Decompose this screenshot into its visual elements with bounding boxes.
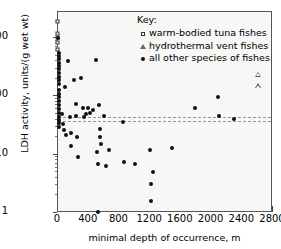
data-point (104, 164, 108, 168)
data-point (56, 20, 60, 24)
open-square-icon (137, 27, 148, 39)
data-point (79, 76, 83, 80)
chart-figure: LDH activity, units/(g wet wt) minimal d… (0, 0, 281, 249)
data-point (84, 112, 88, 116)
data-point (232, 117, 236, 121)
data-point (170, 146, 174, 150)
data-point (91, 108, 95, 112)
data-point (81, 106, 85, 110)
data-point (76, 155, 80, 159)
data-point (122, 160, 126, 164)
data-point (63, 85, 67, 89)
data-point (107, 148, 111, 152)
data-point (102, 114, 106, 118)
data-point (74, 102, 78, 106)
legend-item: all other species of fishes (137, 52, 270, 64)
data-point (98, 135, 102, 139)
data-point (148, 148, 152, 152)
data-point (72, 78, 76, 82)
data-point (86, 106, 90, 110)
legend-item-label: warm-bodied tuna fishes (149, 27, 267, 39)
y-tick-label: 10 (0, 148, 8, 158)
legend-title: Key: (137, 14, 270, 26)
data-point (61, 122, 65, 126)
data-point (216, 95, 220, 99)
data-point (133, 162, 137, 166)
data-point (149, 182, 153, 186)
data-point (96, 162, 100, 166)
data-point (217, 114, 221, 118)
data-point (193, 106, 197, 110)
y-axis-title: LDH activity, units/(g wet wt) (19, 0, 30, 174)
data-point (121, 120, 125, 124)
x-axis-title: minimal depth of occurrence, m (57, 232, 272, 243)
data-point (69, 144, 73, 148)
data-point (149, 199, 153, 203)
data-point (94, 58, 98, 62)
data-point (66, 59, 70, 63)
data-point (57, 82, 61, 86)
y-tick-label: 100 (0, 89, 8, 99)
data-point (97, 103, 101, 107)
data-point (56, 41, 60, 45)
data-point (75, 135, 79, 139)
data-point (98, 127, 102, 131)
data-point (68, 115, 72, 119)
reference-line (58, 117, 271, 118)
y-tick-label: 1000 (0, 31, 8, 41)
legend-item: hydrothermal vent fishes (137, 40, 270, 52)
data-point (255, 72, 261, 77)
reference-line (58, 121, 271, 122)
data-point (96, 210, 100, 214)
data-point (151, 170, 155, 174)
legend-item: warm-bodied tuna fishes (137, 27, 270, 39)
data-point (95, 150, 99, 154)
legend-item-label: all other species of fishes (149, 52, 270, 64)
data-point (255, 83, 261, 88)
data-point (74, 114, 78, 118)
legend-item-label: hydrothermal vent fishes (149, 40, 268, 52)
data-point (99, 142, 103, 146)
chart-legend: Key: warm-bodied tuna fisheshydrothermal… (137, 14, 270, 65)
legend-items: warm-bodied tuna fisheshydrothermal vent… (137, 27, 270, 64)
data-point (69, 131, 73, 135)
data-point (60, 112, 64, 116)
data-point (56, 36, 60, 40)
x-tick-mark (272, 206, 273, 212)
y-tick-label: 1 (0, 206, 8, 216)
x-tick-label: 2800 (252, 214, 281, 224)
filled-circle-icon (137, 52, 148, 64)
open-triangle-icon (137, 40, 148, 52)
